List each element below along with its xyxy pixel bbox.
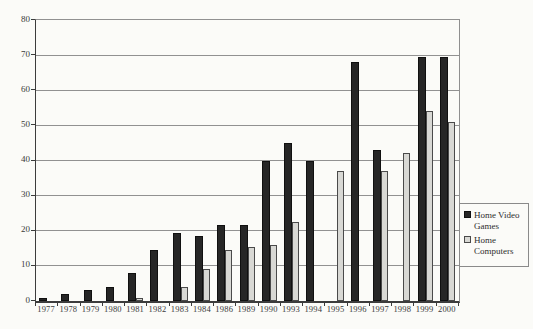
x-tick-4 [124,302,125,306]
x-tick-18 [436,302,437,306]
bar-1983-computers [181,287,188,301]
gridline-20 [36,230,459,231]
y-tick-label-50: 50 [4,119,30,130]
plot-area [35,19,460,303]
y-tick-60 [31,89,35,90]
gridline-50 [36,125,459,126]
x-tick-3 [102,302,103,306]
y-tick-label-80: 80 [4,14,30,25]
y-tick-label-70: 70 [4,49,30,60]
x-tick-17 [413,302,414,306]
bar-1993-computers [292,222,299,301]
bar-1981-computers [136,298,143,302]
x-tick-1 [57,302,58,306]
bar-1993-video-games [284,143,292,301]
bar-1990-computers [270,245,277,301]
bar-2000-computers [448,122,455,301]
legend-label-home-computers: Home Computers [474,235,522,256]
x-tick-5 [146,302,147,306]
bar-1997-computers [381,171,388,301]
y-tick-30 [31,195,35,196]
y-tick-80 [31,19,35,20]
y-tick-label-10: 10 [4,259,30,270]
gridline-40 [36,160,459,161]
y-tick-label-30: 30 [4,189,30,200]
bar-1984-computers [203,269,210,301]
legend-swatch-home-computers [464,236,471,243]
x-tick-13 [324,302,325,306]
x-tick-6 [169,302,170,306]
x-tick-7 [191,302,192,306]
y-tick-label-40: 40 [4,154,30,165]
y-tick-20 [31,230,35,231]
gridline-30 [36,195,459,196]
bar-1998-computers [403,153,410,301]
x-label-2000: 2000 [429,304,465,315]
bar-1986-computers [225,250,232,301]
bar-1979-video-games [84,290,92,301]
bar-1983-video-games [173,233,181,301]
bar-1999-computers [426,111,433,301]
gridline-70 [36,55,459,56]
bar-1997-video-games [373,150,381,301]
x-tick-11 [280,302,281,306]
legend: Home Video Games Home Computers [459,203,529,267]
bar-1978-video-games [61,294,69,301]
y-tick-50 [31,124,35,125]
x-tick-8 [213,302,214,306]
x-tick-15 [369,302,370,306]
bar-1984-video-games [195,236,203,301]
bar-1977-video-games [39,298,47,302]
legend-item-home-computers: Home Computers [464,235,528,256]
bar-1995-computers [337,171,344,301]
bar-chart: 01020304050607080 1977197819791980198119… [0,0,533,329]
bar-1982-video-games [150,250,158,301]
bar-1989-video-games [240,225,248,301]
y-tick-70 [31,54,35,55]
x-tick-0 [35,302,36,306]
y-tick-label-60: 60 [4,84,30,95]
x-tick-2 [80,302,81,306]
gridline-60 [36,90,459,91]
bar-1996-video-games [351,62,359,301]
bar-2000-video-games [440,57,448,301]
y-tick-label-0: 0 [4,295,30,306]
x-tick-10 [258,302,259,306]
bar-1999-video-games [418,57,426,301]
x-tick-12 [302,302,303,306]
x-tick-9 [235,302,236,306]
legend-label-home-video-games: Home Video Games [474,210,522,231]
y-tick-40 [31,160,35,161]
legend-swatch-home-video-games [464,211,471,218]
y-tick-0 [31,300,35,301]
x-tick-16 [391,302,392,306]
bar-1989-computers [248,247,255,301]
bar-1990-video-games [262,161,270,302]
bar-1980-video-games [106,287,114,301]
y-tick-label-20: 20 [4,224,30,235]
bar-1994-video-games [306,161,314,302]
y-tick-10 [31,265,35,266]
bar-1981-video-games [128,273,136,301]
x-tick-19 [458,302,459,306]
bar-1986-video-games [217,225,225,301]
x-tick-14 [347,302,348,306]
legend-item-home-video-games: Home Video Games [464,210,528,231]
